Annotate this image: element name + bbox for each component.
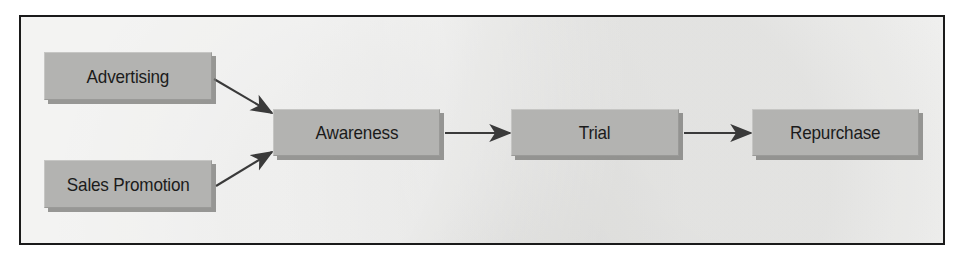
node-advertising[interactable]: Advertising	[44, 52, 212, 100]
node-trial[interactable]: Trial	[511, 109, 679, 156]
node-advertising-label: Advertising	[87, 67, 170, 86]
node-repurchase[interactable]: Repurchase	[752, 109, 919, 156]
node-sales-promotion[interactable]: Sales Promotion	[44, 160, 212, 208]
node-trial-label: Trial	[579, 123, 611, 142]
node-awareness[interactable]: Awareness	[273, 109, 440, 156]
figure-root: Advertising Sales Promotion Awareness Tr…	[0, 0, 956, 264]
node-awareness-label: Awareness	[315, 123, 398, 142]
node-repurchase-label: Repurchase	[790, 123, 880, 142]
node-sales-promotion-label: Sales Promotion	[67, 175, 190, 194]
